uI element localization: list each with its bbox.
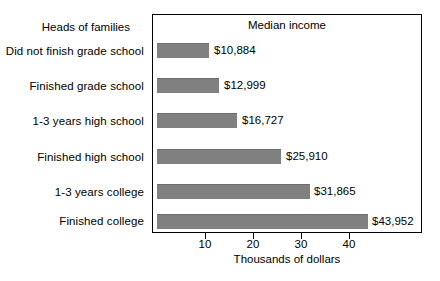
bar bbox=[157, 184, 310, 199]
bar bbox=[157, 214, 368, 229]
bar-value-label: $25,910 bbox=[286, 150, 328, 163]
bar bbox=[157, 149, 281, 164]
bar-value-label: $43,952 bbox=[372, 215, 414, 228]
bar-value-label: $12,999 bbox=[224, 79, 266, 92]
bar bbox=[157, 78, 219, 93]
x-axis-tick-label: 10 bbox=[185, 238, 225, 251]
x-axis-tick-label: 20 bbox=[233, 238, 273, 251]
median-income-bar-chart: Median income Heads of families Did not … bbox=[0, 0, 440, 281]
bar-value-label: $16,727 bbox=[242, 114, 284, 127]
bar bbox=[157, 113, 237, 128]
x-axis-title: Thousands of dollars bbox=[152, 253, 422, 266]
x-axis-tick-label: 30 bbox=[281, 238, 321, 251]
bar bbox=[157, 43, 209, 58]
x-axis-tick-label: 40 bbox=[329, 238, 369, 251]
bar-value-label: $31,865 bbox=[314, 185, 356, 198]
bar-value-label: $10,884 bbox=[214, 44, 256, 57]
